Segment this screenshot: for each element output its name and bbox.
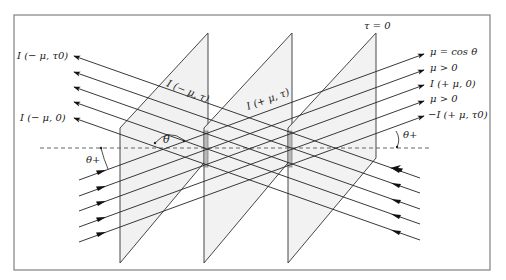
label-tau-zero: τ = 0: [364, 20, 391, 31]
label-right-4: μ > 0: [430, 93, 458, 104]
radiative-transfer-diagram: θ θ+ θ+ I (− μ, τ0) I (− μ, 0) I (− μ, τ…: [0, 0, 506, 280]
theta-plus-left-label: θ+: [86, 154, 100, 165]
label-right-3: I (+ μ, 0): [429, 78, 476, 89]
theta-label: θ: [163, 133, 170, 146]
label-right-2: μ > 0: [430, 62, 458, 73]
theta-plus-right-label: θ+: [403, 129, 417, 140]
label-right-1: μ = cos θ: [430, 46, 477, 57]
label-left-top: I (− μ, τ0): [16, 50, 68, 61]
label-right-5: −I (+ μ, τ0): [428, 109, 488, 120]
label-left-bottom: I (− μ, 0): [19, 112, 66, 123]
